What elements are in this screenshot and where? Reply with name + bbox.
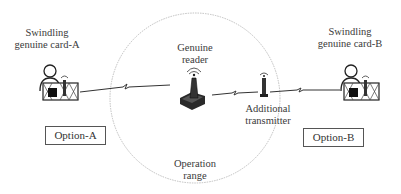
operation-range-label-line2: range — [168, 170, 222, 182]
rfid-reader-icon — [180, 68, 205, 110]
wireless-link-a-to-reader — [80, 84, 170, 92]
operation-range-label-line1: Operation — [168, 158, 222, 170]
additional-transmitter-label-line2: transmitter — [238, 115, 298, 127]
card-a-label-line2: genuine card-A — [2, 39, 92, 51]
card-b-label: Swindling genuine card-B — [303, 26, 397, 50]
additional-transmitter-label-line1: Additional — [238, 103, 298, 115]
genuine-reader-label-line2: reader — [170, 54, 220, 66]
person-with-card-a-icon — [40, 65, 78, 100]
additional-transmitter-label: Additional transmitter — [238, 103, 298, 127]
person-with-card-b-icon — [341, 65, 379, 100]
card-a-label: Swindling genuine card-A — [2, 27, 92, 51]
genuine-reader-label: Genuine reader — [170, 42, 220, 66]
option-b-box: Option-B — [303, 128, 364, 147]
operation-range-label: Operation range — [168, 158, 222, 182]
genuine-reader-label-line1: Genuine — [170, 42, 220, 54]
option-a-box: Option-A — [45, 126, 106, 145]
relay-attack-diagram: Swindling genuine card-A Swindling genui… — [0, 0, 401, 194]
wireless-link-transmitter-to-b — [270, 88, 340, 92]
wireless-link-reader-to-transmitter — [212, 91, 258, 95]
card-a-label-line1: Swindling — [2, 27, 92, 39]
card-b-label-line1: Swindling — [303, 26, 397, 38]
card-b-label-line2: genuine card-B — [303, 38, 397, 50]
antenna-transmitter-icon — [260, 73, 268, 97]
